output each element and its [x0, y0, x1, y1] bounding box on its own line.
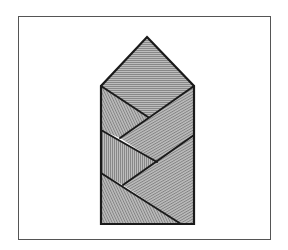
regions-group	[101, 37, 194, 224]
pentagon-strip-figure	[0, 0, 288, 250]
